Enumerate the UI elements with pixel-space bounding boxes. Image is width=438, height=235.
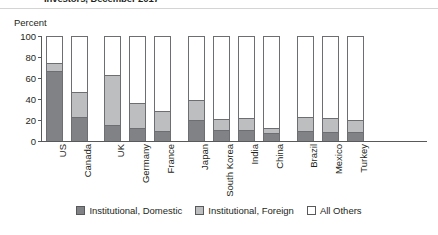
- legend-item-all-others[interactable]: All Others: [307, 205, 362, 216]
- segment-divider: [105, 125, 120, 126]
- chart-figure: Investors, December 2017 Percent 0204060…: [0, 0, 438, 235]
- chart-legend: Institutional, DomesticInstitutional, Fo…: [0, 205, 438, 216]
- segment-divider: [47, 71, 62, 72]
- x-tick-label-uk: UK: [115, 131, 126, 144]
- x-tick-label-text: Brazil: [308, 144, 319, 168]
- segment-divider: [298, 117, 313, 118]
- x-tick-label-japan: Japan: [199, 118, 210, 144]
- bar-us[interactable]: [46, 36, 63, 141]
- legend-item-institutional-domestic[interactable]: Institutional, Domestic: [76, 205, 182, 216]
- y-tick-label: 20: [25, 115, 36, 126]
- legend-swatch-icon: [76, 206, 85, 215]
- x-axis-labels: USCanadaUKGermanyFranceJapanSouth KoreaI…: [41, 142, 426, 194]
- y-tick-label: 100: [20, 31, 36, 42]
- x-tick-label-text: China: [274, 144, 285, 169]
- x-tick-label-text: India: [249, 144, 260, 165]
- title-divider: [0, 8, 438, 9]
- legend-label: Institutional, Domestic: [89, 205, 182, 216]
- segment-divider: [105, 75, 120, 76]
- segment-divider: [47, 63, 62, 64]
- x-tick-label-france: France: [165, 114, 176, 144]
- x-tick-label-text: UK: [115, 144, 126, 157]
- x-tick-label-text: Japan: [199, 144, 210, 170]
- y-tick-label: 60: [25, 73, 36, 84]
- x-tick-label-china: China: [274, 119, 285, 144]
- x-tick-label-india: India: [249, 123, 260, 144]
- legend-label: Institutional, Foreign: [208, 205, 294, 216]
- chart-title-clip: Investors, December 2017: [0, 0, 438, 7]
- y-tick-label: 0: [31, 136, 36, 147]
- legend-item-institutional-foreign[interactable]: Institutional, Foreign: [195, 205, 294, 216]
- x-tick-label-canada: Canada: [82, 111, 93, 144]
- x-tick-label-text: Germany: [140, 144, 151, 183]
- x-tick-label-mexico: Mexico: [333, 114, 344, 144]
- x-tick-label-text: US: [57, 144, 68, 157]
- legend-label: All Others: [320, 205, 362, 216]
- x-tick-label-turkey: Turkey: [358, 115, 369, 144]
- x-tick-label-text: Mexico: [333, 144, 344, 174]
- x-tick-label-text: France: [165, 144, 176, 174]
- x-tick-label-text: Canada: [82, 144, 93, 177]
- y-tick-label: 40: [25, 94, 36, 105]
- x-tick-label-text: South Korea: [224, 144, 235, 197]
- page-title: Investors, December 2017: [44, 0, 159, 4]
- y-tick-label: 80: [25, 52, 36, 63]
- x-tick-label-us: US: [57, 131, 68, 144]
- segment-divider: [72, 92, 87, 93]
- segment-institutional-foreign: [105, 76, 120, 126]
- segment-divider: [189, 100, 204, 101]
- x-tick-label-germany: Germany: [140, 105, 151, 144]
- segment-divider: [239, 118, 254, 119]
- y-axis-label: Percent: [14, 17, 47, 28]
- x-tick-label-text: Turkey: [358, 144, 369, 173]
- legend-swatch-icon: [307, 206, 316, 215]
- legend-swatch-icon: [195, 206, 204, 215]
- bar-uk[interactable]: [104, 36, 121, 141]
- segment-divider: [155, 111, 170, 112]
- x-tick-label-brazil: Brazil: [308, 120, 319, 144]
- x-tick-label-south-korea: South Korea: [224, 91, 235, 144]
